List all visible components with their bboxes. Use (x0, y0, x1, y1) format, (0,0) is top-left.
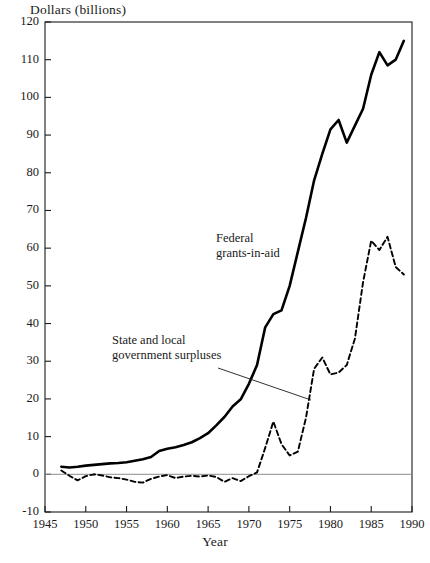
x-tick-label: 1980 (308, 517, 352, 532)
y-tick-label: 30 (5, 353, 39, 368)
annotation-federal-grants-in-aid: Federal grants-in-aid (216, 231, 280, 261)
annotation-federal-line-1: Federal (216, 231, 280, 246)
x-tick-label: 1965 (186, 517, 230, 532)
y-tick-label: 0 (5, 466, 39, 481)
y-tick-label: 20 (5, 391, 39, 406)
y-tick-label: 40 (5, 316, 39, 331)
x-tick-label: 1960 (145, 517, 189, 532)
y-tick-label: 120 (5, 14, 39, 29)
y-tick-label: 110 (5, 52, 39, 67)
y-tick-label: 10 (5, 429, 39, 444)
y-tick-label: 60 (5, 240, 39, 255)
x-tick-label: 1985 (349, 517, 393, 532)
x-tick-label: 1975 (268, 517, 312, 532)
chart-figure: Dollars (billions) Year Federal grants-i… (0, 0, 430, 563)
y-tick-label: 90 (5, 127, 39, 142)
y-axis-title: Dollars (billions) (30, 2, 126, 18)
series-lines (61, 41, 404, 483)
y-tick-label: 100 (5, 89, 39, 104)
axis-frame (45, 22, 412, 512)
leader-line-state-local-label (218, 368, 311, 400)
plot-area (0, 0, 430, 563)
annotation-state-line-1: State and local (112, 333, 221, 348)
y-tick-label: 80 (5, 165, 39, 180)
x-tick-label: 1950 (64, 517, 108, 532)
annotation-federal-line-2: grants-in-aid (216, 246, 280, 261)
tick-marks (45, 22, 412, 512)
y-tick-label: 50 (5, 278, 39, 293)
plot-frame (45, 22, 412, 512)
x-axis-title: Year (0, 534, 430, 550)
annotation-leader-line (218, 368, 311, 400)
annotation-state-line-2: government surpluses (112, 348, 221, 363)
x-tick-label: 1945 (23, 517, 67, 532)
x-tick-label: 1955 (105, 517, 149, 532)
y-tick-label: 70 (5, 202, 39, 217)
x-tick-label: 1990 (390, 517, 430, 532)
x-tick-label: 1970 (227, 517, 271, 532)
annotation-state-local-surpluses: State and local government surpluses (112, 333, 221, 363)
